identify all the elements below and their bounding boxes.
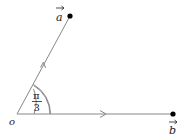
vector-a-line <box>17 16 70 114</box>
angle-denominator: 3 <box>34 102 40 113</box>
vector-angle-diagram: o a b π 3 <box>0 0 188 137</box>
point-a <box>67 13 72 18</box>
origin-label: o <box>9 116 15 127</box>
vector-b-label: b <box>169 124 176 137</box>
angle-numerator: π <box>33 90 40 101</box>
point-b <box>170 111 175 116</box>
vector-a-label: a <box>56 11 63 24</box>
vector-a-arrow-icon <box>56 6 64 10</box>
